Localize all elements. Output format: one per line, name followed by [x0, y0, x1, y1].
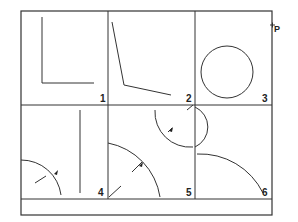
arc-shape [197, 154, 263, 193]
arc-shape [195, 107, 208, 147]
cell-label: 6 [262, 187, 268, 198]
right-angle-shape [42, 17, 94, 83]
arc-shape [155, 110, 193, 147]
geometry-diagram: 1 2 3 4 5 6 P [0, 0, 298, 222]
cell-label: 5 [186, 187, 192, 198]
cell-label: 3 [262, 93, 268, 104]
radius-line [109, 186, 121, 197]
radius-line [35, 176, 46, 183]
arrow-icon [54, 170, 58, 175]
arrow-icon [169, 127, 173, 132]
arc-shape [21, 160, 61, 195]
obtuse-angle-shape [112, 22, 171, 95]
circle-shape [201, 46, 253, 98]
point-label: P [274, 24, 280, 34]
radius-line [187, 105, 193, 110]
cell-label: 1 [100, 93, 106, 104]
cell-label: 4 [98, 187, 104, 198]
radius-line [132, 162, 142, 172]
cell-label: 2 [186, 93, 192, 104]
